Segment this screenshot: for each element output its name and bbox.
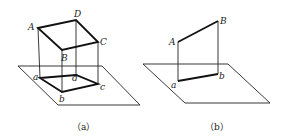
figure-b: A B a b （b） bbox=[143, 16, 270, 132]
label-B: B bbox=[219, 16, 227, 26]
label-A: A bbox=[168, 37, 176, 47]
face-abcd bbox=[40, 75, 98, 92]
projector-A-a bbox=[38, 28, 40, 78]
caption-b: （b） bbox=[205, 122, 229, 132]
label-a: a bbox=[33, 72, 38, 82]
label-D: D bbox=[73, 9, 81, 19]
label-c: c bbox=[100, 82, 105, 92]
segment-ab bbox=[178, 74, 218, 81]
projection-diagram: A D C B a d c b （a） A B a b （b） bbox=[0, 0, 281, 139]
figure-a: A D C B a d c b （a） bbox=[18, 9, 140, 132]
caption-a: （a） bbox=[72, 122, 95, 132]
label-d: d bbox=[72, 73, 78, 83]
label-A: A bbox=[27, 22, 35, 32]
projection-plane-b bbox=[143, 64, 270, 103]
segment-AB bbox=[178, 21, 218, 42]
label-b: b bbox=[59, 94, 65, 104]
label-C: C bbox=[100, 37, 107, 47]
face-ABCD bbox=[38, 20, 98, 50]
label-b: b bbox=[219, 71, 225, 81]
label-B: B bbox=[60, 53, 68, 63]
label-a: a bbox=[171, 80, 176, 90]
